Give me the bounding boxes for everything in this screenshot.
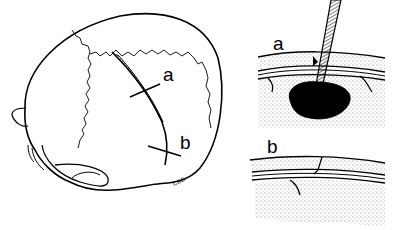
skull-outline bbox=[25, 14, 222, 191]
coronal-suture bbox=[72, 30, 91, 148]
skull-label-a: a bbox=[163, 64, 174, 85]
brain-tissue-b bbox=[255, 180, 385, 226]
skull-illustration bbox=[12, 14, 222, 191]
marker-a-line bbox=[130, 84, 160, 97]
skull-label-b: b bbox=[180, 132, 191, 153]
fracture-gap bbox=[115, 55, 163, 122]
skull-orbit-lower bbox=[72, 172, 100, 178]
panel-b-label: b bbox=[267, 136, 278, 157]
fracture-line bbox=[112, 52, 167, 165]
skull-cheek-arch bbox=[42, 145, 108, 186]
panel-a-label: a bbox=[273, 33, 284, 54]
skull-fracture-diagram: a b CBC a b bbox=[0, 0, 395, 230]
panel-a-cross-section bbox=[258, 0, 385, 128]
marker-b-line bbox=[148, 146, 181, 156]
artist-signature: CBC bbox=[172, 176, 187, 187]
sagittal-suture bbox=[90, 50, 211, 128]
panel-b-cross-section bbox=[250, 157, 385, 226]
